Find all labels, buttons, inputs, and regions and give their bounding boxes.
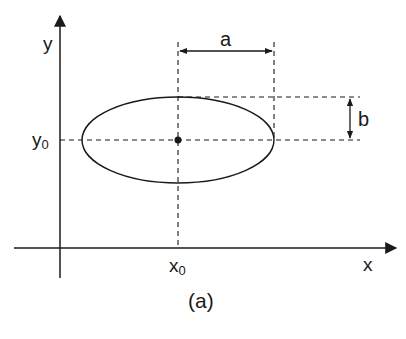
y0-label-sub: 0 — [42, 137, 49, 152]
semi-major-label: a — [220, 28, 232, 50]
ellipse-diagram: y x y0 x0 a b (a) — [0, 0, 406, 339]
x0-label: x0 — [169, 255, 186, 278]
y-axis-label: y — [43, 33, 53, 54]
x0-label-sub: 0 — [179, 263, 186, 278]
x-axis-label: x — [363, 254, 373, 275]
x0-label-main: x — [169, 255, 179, 276]
y0-label: y0 — [32, 129, 49, 152]
figure-caption: (a) — [188, 289, 214, 312]
semi-minor-label: b — [358, 108, 369, 130]
guide-lines — [60, 42, 360, 248]
y0-label-main: y — [32, 129, 42, 150]
center-point — [175, 137, 182, 144]
